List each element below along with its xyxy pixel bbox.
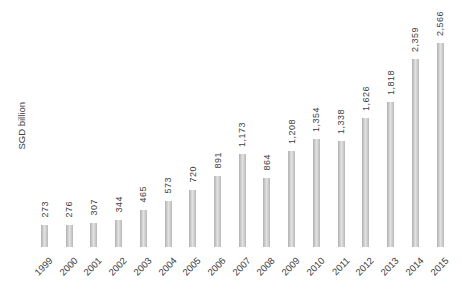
bar-value-label: 2,566 (435, 11, 445, 36)
bar-value-label: 1,818 (386, 70, 396, 95)
bar-chart: SGD billion 2731999276200030720013442002… (0, 0, 462, 293)
bar (90, 223, 97, 247)
bar (387, 102, 394, 247)
bar (313, 139, 320, 247)
bar-column: 1,354 (303, 107, 329, 247)
bar (338, 141, 345, 247)
bar (115, 220, 122, 247)
bar (288, 151, 295, 247)
bar-value-label: 1,338 (336, 109, 346, 134)
bar (165, 201, 172, 247)
bar-column: 891 (205, 152, 231, 247)
bar (41, 225, 48, 247)
bar (140, 210, 147, 247)
bar-value-label: 465 (138, 186, 148, 203)
bar-value-label: 1,208 (287, 119, 297, 144)
bar (214, 176, 221, 247)
bar-value-label: 1,626 (361, 86, 371, 111)
bar-column: 465 (130, 186, 156, 247)
bar-column: 273 (32, 201, 58, 247)
bar (412, 59, 419, 247)
bar-value-label: 276 (64, 201, 74, 218)
bar-value-label: 344 (114, 196, 124, 213)
bar-value-label: 864 (262, 154, 272, 171)
bar-value-label: 273 (40, 201, 50, 218)
bar-value-label: 2,359 (410, 27, 420, 52)
bar-value-label: 573 (163, 177, 173, 194)
bar-column: 864 (254, 154, 280, 247)
bar-column: 307 (81, 199, 107, 247)
bar-column: 573 (155, 177, 181, 247)
bar-column: 1,208 (279, 119, 305, 247)
bar-column: 276 (56, 201, 82, 247)
bar (66, 225, 73, 247)
bar-value-label: 1,354 (311, 107, 321, 132)
bar-value-label: 891 (213, 152, 223, 169)
bar (189, 190, 196, 247)
bar-column: 2,359 (402, 27, 428, 247)
bar (437, 43, 444, 247)
y-axis-label: SGD billion (16, 102, 27, 150)
bar-value-label: 720 (188, 166, 198, 183)
bar (263, 178, 270, 247)
bar (362, 118, 369, 247)
bar-column: 1,626 (353, 86, 379, 247)
bar-column: 1,173 (229, 122, 255, 247)
bar-value-label: 307 (89, 199, 99, 216)
bar-column: 1,818 (378, 70, 404, 247)
bar (239, 154, 246, 247)
bar-column: 720 (180, 166, 206, 247)
bar-column: 2,566 (427, 11, 453, 247)
bar-value-label: 1,173 (237, 122, 247, 147)
bar-column: 344 (106, 196, 132, 247)
bar-column: 1,338 (328, 109, 354, 247)
